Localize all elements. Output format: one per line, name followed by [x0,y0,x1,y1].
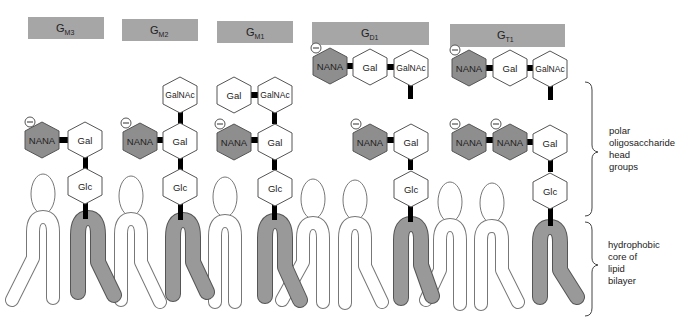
charge-icon [25,117,35,127]
sugar-nana: NANA [452,50,486,86]
sugar-gal: Gal [217,77,251,113]
sugar-gal: Gal [533,125,567,161]
sugar-glc: Glc [68,168,102,204]
svg-text:Gal: Gal [363,62,378,73]
sugar-gal: Gal [258,124,292,160]
brace-polar [585,82,598,216]
svg-text:Glc: Glc [78,181,93,192]
sugar-gal: Gal [493,50,527,86]
svg-text:oligosaccharide: oligosaccharide [609,137,675,148]
charge-icon [351,119,361,129]
sugar-galnac: GalNAc [533,51,567,87]
sugar-nana: NANA [493,124,527,160]
sugar-galnac: GalNAc [258,77,292,113]
title-gm3: GM3 [28,17,104,39]
svg-text:NANA: NANA [497,137,524,148]
sugar-nana: NANA [217,124,251,160]
ganglioside-tail-gd1 [401,224,432,298]
sugar-galnac: GalNAc [163,77,197,113]
ganglioside-diagram: GM3 GM2 GM1 GD1 GT1 [0,0,697,333]
svg-text:Gal: Gal [173,136,188,147]
svg-text:polar: polar [609,125,630,136]
sugar-galnac: GalNAc [394,50,428,86]
svg-text:lipid: lipid [608,263,625,274]
svg-text:GalNAc: GalNAc [165,90,195,100]
sugar-gal: Gal [68,122,102,158]
charge-icon [215,119,225,129]
svg-text:Glc: Glc [404,184,419,195]
svg-text:hydrophobic: hydrophobic [608,239,660,250]
svg-text:Gal: Gal [268,137,283,148]
svg-text:bilayer: bilayer [608,275,636,286]
sugar-nana: NANA [452,124,486,160]
brace-hydrophobic [585,222,598,316]
svg-text:NANA: NANA [456,137,483,148]
sugar-nana: NANA [313,48,347,84]
charge-icon [121,118,131,128]
phospholipid [343,180,382,303]
svg-text:groups: groups [609,161,638,172]
svg-text:Glc: Glc [543,186,558,197]
svg-text:Gal: Gal [404,137,419,148]
svg-text:GalNAc: GalNAc [535,64,565,74]
sugar-glc: Glc [533,173,567,209]
charge-icon [311,43,321,53]
sugar-gal: Gal [163,123,197,159]
sugar-glc: Glc [163,169,197,205]
svg-text:NANA: NANA [221,137,248,148]
title-gm1: GM1 [217,21,293,43]
phospholipid [480,183,518,304]
ganglioside-tail-gm2 [173,220,207,294]
svg-text:NANA: NANA [456,63,483,74]
ganglioside-tail-gt1 [540,227,577,297]
svg-text:Glc: Glc [268,183,283,194]
charge-icon [450,45,460,55]
svg-text:NANA: NANA [29,135,56,146]
svg-text:core of: core of [608,251,637,262]
label-polar-head-groups: polar oligosaccharide head groups [609,125,675,172]
sugar-gal: Gal [353,49,387,85]
svg-text:Gal: Gal [78,135,93,146]
svg-text:head: head [609,149,630,160]
title-gm2: GM2 [122,19,198,41]
sugar-glc: Glc [258,170,292,206]
svg-text:Gal: Gal [543,138,558,149]
svg-text:Gal: Gal [227,90,242,101]
title-gd1: GD1 [312,22,429,45]
phospholipid [119,176,160,302]
label-hydrophobic-core: hydrophobic core of lipid bilayer [608,239,660,286]
charge-icon [450,119,460,129]
svg-text:NANA: NANA [317,61,344,72]
svg-text:GalNAc: GalNAc [260,90,290,100]
charge-icon [491,119,501,129]
sugar-glc: Glc [394,171,428,207]
svg-text:NANA: NANA [357,137,384,148]
svg-text:Glc: Glc [173,182,188,193]
sugar-gal: Gal [394,124,428,160]
phospholipid [213,177,237,302]
title-gt1: GT1 [450,24,565,47]
svg-text:GalNAc: GalNAc [396,63,426,73]
ganglioside-tail-gm3 [78,218,114,295]
sugar-nana: NANA [353,124,387,160]
svg-text:Gal: Gal [503,63,518,74]
svg-text:NANA: NANA [127,136,154,147]
sugar-nana: NANA [123,123,157,159]
phospholipid [12,174,55,300]
